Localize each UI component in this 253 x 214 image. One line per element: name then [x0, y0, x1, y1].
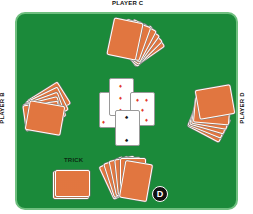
trick-label: TRICK: [64, 157, 83, 163]
card-back: [25, 100, 66, 136]
player-b-label: PLAYER B: [0, 92, 5, 123]
player-c-label: PLAYER C: [112, 0, 143, 6]
player-d-label: PLAYER D: [239, 92, 245, 123]
dealer-badge: D: [152, 186, 168, 202]
card-back: [55, 170, 90, 197]
card-spade: ♠ ♠: [115, 110, 140, 146]
card-back: [195, 84, 236, 120]
